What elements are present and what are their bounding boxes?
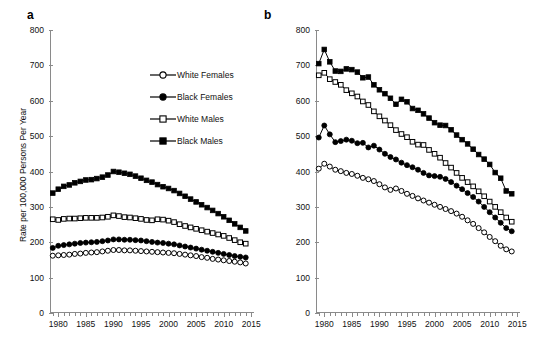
data-point — [105, 248, 110, 253]
x-tick-minor — [207, 313, 208, 316]
x-tick-minor — [363, 313, 364, 316]
legend-label: White Males — [177, 114, 224, 124]
data-point — [399, 97, 404, 102]
data-point — [349, 171, 354, 176]
x-tick-minor — [401, 313, 402, 316]
data-point — [322, 123, 327, 128]
data-point — [416, 142, 421, 147]
panel-a: a Rate per 100,000 Persons Per Year 0100… — [0, 0, 274, 358]
data-point — [355, 94, 360, 99]
x-tick-minor — [479, 313, 480, 316]
x-tick-minor — [152, 313, 153, 316]
data-point — [355, 70, 360, 75]
data-point — [383, 91, 388, 96]
data-point — [161, 250, 166, 255]
data-point — [232, 254, 237, 259]
data-point — [382, 185, 387, 190]
data-point — [83, 240, 88, 245]
data-point — [493, 239, 498, 244]
data-point — [454, 211, 459, 216]
data-point — [155, 182, 160, 187]
y-tick-label: 800 — [296, 25, 310, 35]
y-tick-label: 800 — [30, 25, 44, 35]
x-tick-minor — [319, 313, 320, 316]
data-point — [78, 251, 83, 256]
data-point — [360, 140, 365, 145]
x-tick-minor — [235, 313, 236, 316]
x-tick-label: 1985 — [76, 319, 95, 329]
x-tick-major — [224, 313, 225, 317]
data-point — [221, 214, 226, 219]
x-tick-major — [196, 313, 197, 317]
data-point — [487, 234, 492, 239]
data-point — [443, 176, 448, 181]
x-tick-major — [251, 313, 252, 317]
x-tick-minor — [146, 313, 147, 316]
open-square-marker-icon — [150, 113, 176, 125]
x-tick-label: 1980 — [315, 319, 334, 329]
data-point — [498, 210, 503, 215]
data-point — [100, 239, 105, 244]
data-point — [232, 222, 237, 227]
x-tick-minor — [108, 313, 109, 316]
data-point — [127, 237, 132, 242]
data-point — [94, 239, 99, 244]
data-point — [443, 161, 448, 166]
data-point — [482, 204, 487, 209]
data-point — [355, 141, 360, 146]
data-point — [106, 214, 111, 219]
data-point — [316, 61, 321, 66]
data-point — [89, 216, 94, 221]
data-point — [421, 170, 426, 175]
y-tick-label: 400 — [296, 167, 310, 177]
data-point — [133, 248, 138, 253]
data-point — [487, 210, 492, 215]
data-point — [205, 255, 210, 260]
data-point — [383, 118, 388, 123]
data-point — [498, 243, 503, 248]
data-point — [471, 194, 476, 199]
x-tick-label: 2015 — [508, 319, 527, 329]
y-tick-label: 400 — [30, 167, 44, 177]
x-tick-minor — [506, 313, 507, 316]
data-point — [100, 249, 105, 254]
data-point — [460, 214, 465, 219]
data-point — [471, 147, 476, 152]
data-point — [482, 157, 487, 162]
data-point — [139, 176, 144, 181]
data-point — [394, 102, 399, 107]
data-point — [504, 215, 509, 220]
data-point — [438, 123, 443, 128]
data-point — [405, 135, 410, 140]
x-tick-major — [407, 313, 408, 317]
data-point — [322, 71, 327, 76]
data-point — [89, 240, 94, 245]
data-point — [216, 250, 221, 255]
data-point — [50, 253, 55, 258]
data-point — [382, 151, 387, 156]
data-point — [476, 199, 481, 204]
data-point — [128, 215, 133, 220]
data-point — [188, 245, 193, 250]
x-tick-label: 2005 — [453, 319, 472, 329]
data-point — [210, 208, 215, 213]
x-tick-minor — [451, 313, 452, 316]
series-white-males — [316, 71, 514, 225]
data-point — [83, 250, 88, 255]
data-point — [454, 183, 459, 188]
data-point — [183, 224, 188, 229]
x-tick-label: 1995 — [398, 319, 417, 329]
data-point — [89, 177, 94, 182]
x-tick-minor — [53, 313, 54, 316]
data-point — [360, 175, 365, 180]
data-point — [78, 216, 83, 221]
legend: White Females Black Females White Males … — [150, 66, 234, 154]
x-tick-major — [58, 313, 59, 317]
data-point — [243, 255, 248, 260]
data-point — [188, 197, 193, 202]
data-point — [84, 178, 89, 183]
data-point — [144, 218, 149, 223]
data-point — [410, 106, 415, 111]
data-point — [487, 199, 492, 204]
data-point — [427, 173, 432, 178]
